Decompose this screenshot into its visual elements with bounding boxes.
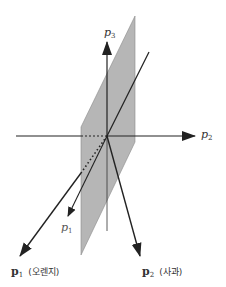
orange-vector — [20, 173, 81, 256]
apple-name: (사과) — [159, 267, 182, 277]
p2-label: p2 — [201, 129, 213, 142]
apple-vector-label: p2 (사과) — [142, 262, 182, 279]
p1-var: p — [61, 221, 68, 234]
orange-var: p — [11, 265, 19, 278]
p1-sub: 1 — [68, 227, 72, 235]
p2-var: p — [201, 128, 208, 141]
p1-label: p1 — [61, 222, 73, 235]
p3-label: p3 — [104, 27, 116, 40]
apple-var: p — [142, 265, 150, 278]
p3-sub: 3 — [111, 32, 115, 40]
diagram-canvas — [0, 0, 226, 287]
p3-var: p — [104, 26, 111, 39]
apple-sub: 2 — [150, 271, 154, 279]
orange-vector-label: p1 (오렌지) — [11, 262, 59, 279]
orange-sub: 1 — [19, 271, 23, 279]
p2-sub: 2 — [208, 134, 212, 142]
orange-name: (오렌지) — [28, 267, 59, 277]
